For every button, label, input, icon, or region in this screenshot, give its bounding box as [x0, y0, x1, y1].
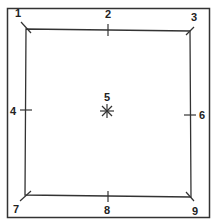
point-label-9: 9 — [192, 206, 198, 217]
diagram-canvas — [0, 0, 217, 223]
point-label-1: 1 — [15, 8, 21, 19]
point-label-8: 8 — [104, 205, 110, 216]
center-asterisk-icon — [100, 104, 114, 118]
point-label-2: 2 — [105, 9, 111, 20]
point-label-7: 7 — [13, 204, 19, 215]
inner-square — [25, 29, 191, 197]
point-label-6: 6 — [199, 110, 205, 121]
point-label-5: 5 — [104, 92, 110, 103]
point-label-4: 4 — [10, 106, 16, 117]
point-label-3: 3 — [191, 12, 197, 23]
